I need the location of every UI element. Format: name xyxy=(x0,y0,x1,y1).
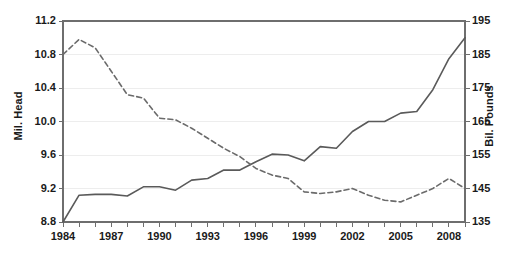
x-axis-ticks xyxy=(63,222,465,227)
series-line-1 xyxy=(63,38,465,222)
plot-area xyxy=(0,0,507,258)
series-line-2 xyxy=(63,39,465,201)
gridlines xyxy=(63,55,465,189)
y-axis-right-ticks xyxy=(465,21,470,222)
chart-container: Mil. Head Bil. Pounds 8.89.29.610.010.41… xyxy=(0,0,507,258)
data-series-layer xyxy=(63,38,465,222)
y-axis-left-ticks xyxy=(59,21,64,222)
